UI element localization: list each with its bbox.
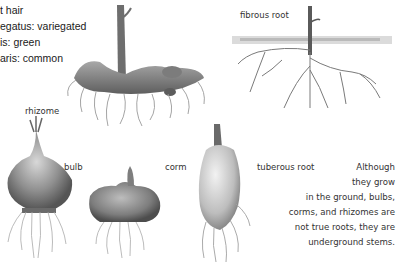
note-line: Although	[245, 160, 395, 175]
fibrous-root-label: fibrous root	[240, 10, 289, 20]
bulb-illustration	[7, 116, 72, 258]
rhizome-label: rhizome	[25, 106, 59, 116]
corm-label: corm	[165, 162, 187, 172]
legend-line: aris: common	[0, 50, 86, 66]
legend-line: egatus: variegated	[0, 18, 86, 34]
note-line: in the ground, bulbs,	[245, 190, 395, 205]
note-line: corms, and rhizomes are	[245, 205, 395, 220]
species-legend: t hair egatus: variegated is: green aris…	[0, 2, 86, 66]
note-line: underground stems.	[245, 235, 395, 250]
rhizome-illustration	[68, 5, 205, 126]
legend-line: t hair	[0, 2, 86, 18]
fibrous-root-illustration	[232, 6, 392, 108]
note-line: not true roots, they are	[245, 220, 395, 235]
explanatory-note: Although they grow in the ground, bulbs,…	[245, 160, 395, 250]
corm-illustration	[89, 166, 160, 258]
illustrated-page: t hair egatus: variegated is: green aris…	[0, 0, 403, 265]
bulb-label: bulb	[64, 162, 83, 172]
note-line: they grow	[245, 175, 395, 190]
tuberous-root-illustration	[199, 124, 250, 262]
legend-line: is: green	[0, 34, 86, 50]
